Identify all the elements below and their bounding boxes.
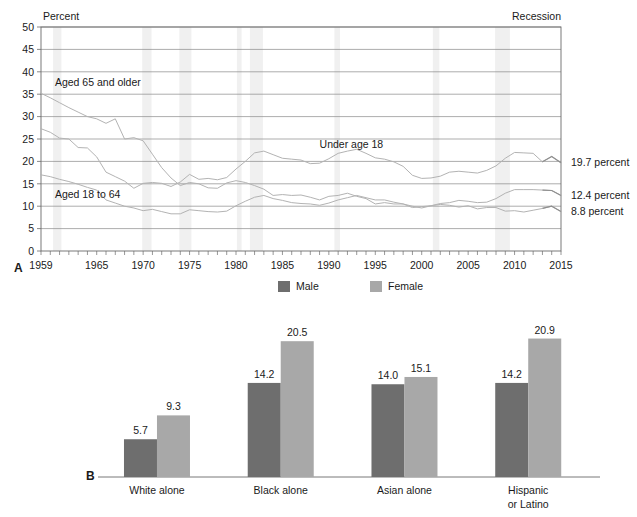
- bar-value-label-asian-alone-male: 14.0: [378, 369, 399, 381]
- bar-value-label-white-alone-male: 5.7: [133, 424, 148, 436]
- x-tick-label-2000: 2000: [410, 259, 434, 271]
- bar-value-label-white-alone-female: 9.3: [166, 400, 181, 412]
- x-tick-label-1959: 1959: [29, 259, 53, 271]
- series-annotation-aged-65-and-older: Aged 65 and older: [55, 76, 141, 88]
- y-axis-title: Percent: [43, 10, 79, 22]
- y-tick-label-40: 40: [22, 66, 34, 78]
- category-label-asian-alone: Asian alone: [377, 484, 432, 496]
- end-label-124: 12.4 percent: [571, 189, 629, 201]
- y-tick-label-50: 50: [22, 21, 34, 33]
- bar-asian-alone-female: [404, 377, 437, 477]
- series-annotation-aged-18-to-64: Aged 18 to 64: [55, 188, 121, 200]
- category-label-white-alone: White alone: [129, 484, 185, 496]
- x-tick-label-2010: 2010: [503, 259, 527, 271]
- end-label-88: 8.8 percent: [571, 205, 624, 217]
- figure-svg: 0510152025303540455019591965197019751980…: [0, 0, 637, 517]
- figure-container: 0510152025303540455019591965197019751980…: [0, 0, 637, 517]
- y-tick-label-20: 20: [22, 155, 34, 167]
- series-tail-1: [542, 190, 561, 195]
- x-tick-label-1975: 1975: [178, 259, 202, 271]
- bar-value-label-hispanic-or-latino-male: 14.2: [502, 368, 523, 380]
- panel-label-a: A: [14, 261, 23, 275]
- legend-label-male: Male: [296, 280, 319, 292]
- y-tick-label-0: 0: [28, 245, 34, 257]
- bar-white-alone-male: [124, 439, 157, 477]
- bar-hispanic-or-latino-female: [528, 339, 561, 477]
- x-tick-label-1985: 1985: [271, 259, 295, 271]
- x-tick-label-2005: 2005: [456, 259, 480, 271]
- bar-value-label-hispanic-or-latino-female: 20.9: [535, 324, 556, 336]
- x-tick-label-1970: 1970: [131, 259, 155, 271]
- series-annotation-under-age-18: Under age 18: [320, 138, 384, 150]
- category-label-hispanic-or-latino: or Latino: [508, 498, 549, 510]
- bar-black-alone-male: [248, 383, 281, 477]
- bar-value-label-black-alone-female: 20.5: [287, 326, 308, 338]
- y-tick-label-45: 45: [22, 43, 34, 55]
- x-tick-label-1965: 1965: [85, 259, 109, 271]
- category-label-black-alone: Black alone: [254, 484, 308, 496]
- category-label-hispanic-or-latino: Hispanic: [508, 484, 548, 496]
- legend-swatch-female: [370, 281, 382, 292]
- y-tick-label-25: 25: [22, 133, 34, 145]
- bar-hispanic-or-latino-male: [495, 383, 528, 477]
- x-tick-label-1980: 1980: [224, 259, 248, 271]
- series-line-under-age-18: [41, 129, 561, 189]
- legend-label-female: Female: [388, 280, 423, 292]
- panel-label-b: B: [86, 469, 95, 483]
- bar-value-label-asian-alone-female: 15.1: [411, 362, 432, 374]
- recession-legend-label: Recession: [512, 10, 561, 22]
- bar-white-alone-female: [157, 415, 190, 477]
- end-label-197: 19.7 percent: [571, 156, 629, 168]
- legend-swatch-male: [278, 281, 290, 292]
- y-tick-label-10: 10: [22, 200, 34, 212]
- y-tick-label-15: 15: [22, 178, 34, 190]
- bar-asian-alone-male: [371, 384, 404, 477]
- y-tick-label-30: 30: [22, 110, 34, 122]
- x-tick-label-1990: 1990: [317, 259, 341, 271]
- x-tick-label-1995: 1995: [364, 259, 388, 271]
- bar-black-alone-female: [281, 341, 314, 477]
- bar-value-label-black-alone-male: 14.2: [254, 368, 275, 380]
- series-tail-0: [542, 206, 561, 211]
- x-tick-label-2015: 2015: [549, 259, 573, 271]
- y-tick-label-35: 35: [22, 88, 34, 100]
- y-tick-label-5: 5: [28, 222, 34, 234]
- series-tail-2: [542, 156, 561, 162]
